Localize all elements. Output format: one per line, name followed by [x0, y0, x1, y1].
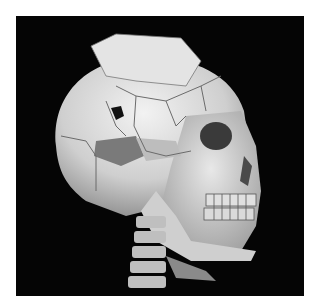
ct-render-panel [16, 16, 304, 296]
orbit [200, 122, 232, 150]
skull-ct-rendering [16, 16, 304, 296]
